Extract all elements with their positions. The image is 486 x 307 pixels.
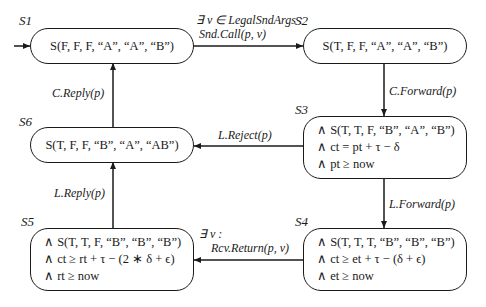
state-s5: ∧ S(T, T, F, “B”, “B”, “B”) ∧ ct ≥ rt + …	[30, 228, 194, 291]
state-s2-text: S(T, F, F, “A”, “A”, “B”)	[323, 38, 448, 55]
state-s3-line1: ∧ S(T, T, F, “B”, “A”, “B”)	[317, 122, 466, 139]
transition-label-s5-s6: L.Reply(p)	[54, 186, 105, 201]
transition-label-s3-s6: L.Reject(p)	[218, 128, 272, 143]
state-label-s6: S6	[19, 114, 32, 130]
state-s3: ∧ S(T, T, F, “B”, “A”, “B”) ∧ ct = pt + …	[303, 116, 467, 179]
state-s4-line1: ∧ S(T, T, T, “B”, “B”, “B”)	[317, 234, 466, 251]
transition-label-s2-s3: C.Forward(p)	[389, 84, 456, 99]
state-label-s4: S4	[295, 214, 308, 230]
state-s3-line2: ∧ ct = pt + τ − δ	[317, 139, 466, 156]
state-s5-line3: ∧ rt ≥ now	[44, 268, 193, 285]
state-label-s1: S1	[19, 13, 32, 29]
state-s4: ∧ S(T, T, T, “B”, “B”, “B”) ∧ ct ≥ et + …	[303, 228, 467, 291]
state-s5-line2: ∧ ct ≥ rt + τ − (2 ∗ δ + ϵ)	[44, 251, 193, 268]
state-s4-line2: ∧ ct ≥ et + τ − (δ + ϵ)	[317, 251, 466, 268]
state-s2: S(T, F, F, “A”, “A”, “B”)	[303, 28, 467, 64]
state-s6-text: S(T, F, F, “B”, “A”, “AB”)	[45, 137, 178, 154]
state-s5-line1: ∧ S(T, T, F, “B”, “B”, “B”)	[44, 234, 193, 251]
state-s6: S(T, F, F, “B”, “A”, “AB”)	[30, 127, 194, 163]
transition-label-s1-s2-action: Snd.Call(p, v)	[199, 27, 266, 42]
state-label-s5: S5	[21, 214, 34, 230]
state-s1: S(F, F, F, “A”, “A”, “B”)	[30, 28, 194, 64]
transition-label-s1-s2-guard: ∃ v ∈ LegalSndArgs :	[196, 13, 303, 28]
transition-label-s3-s4: L.Forward(p)	[389, 197, 455, 212]
transition-label-s6-s1: C.Reply(p)	[52, 86, 104, 101]
state-s1-text: S(F, F, F, “A”, “A”, “B”)	[50, 38, 174, 55]
transition-label-s4-s5-action: Rcv.Return(p, v)	[211, 241, 289, 256]
state-label-s3: S3	[295, 102, 308, 118]
state-s3-line3: ∧ pt ≥ now	[317, 156, 466, 173]
transition-label-s4-s5-guard: ∃ v :	[199, 227, 222, 242]
state-s4-line3: ∧ et ≥ now	[317, 268, 466, 285]
